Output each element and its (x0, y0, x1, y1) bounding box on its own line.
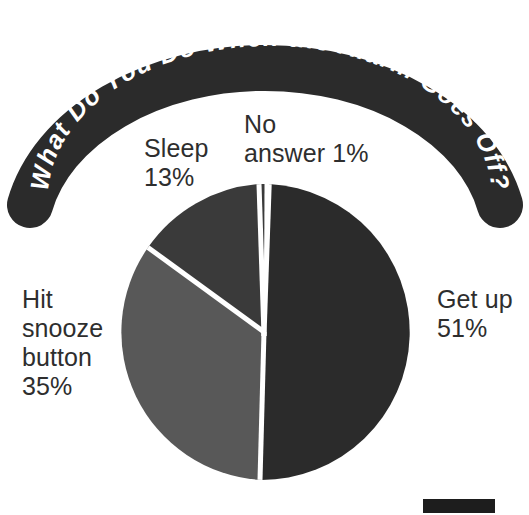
slice-label-hit-snooze: Hit snooze button 35% (22, 285, 103, 401)
pie-chart-graphic: What Do You Do When the Alarm Goes Off? (0, 0, 529, 515)
slice-label-get-up: Get up 51% (437, 285, 513, 343)
corner-mark (423, 499, 495, 513)
pie-slices-group (121, 184, 409, 480)
slice-label-sleep: Sleep 13% (144, 134, 208, 192)
slice-label-no-answer: No answer 1% (244, 110, 369, 168)
chart-canvas: What Do You Do When the Alarm Goes Off? … (0, 0, 529, 515)
pie-slice-get-up[interactable] (260, 184, 410, 480)
